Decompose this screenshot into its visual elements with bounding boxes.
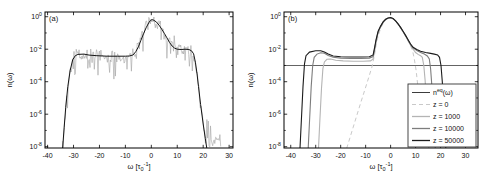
x-axis-label: ω [τ0-1] (127, 161, 150, 172)
legend-label-z50000: z = 50000 (433, 137, 464, 144)
y-tick-label: 10-8 (30, 141, 43, 150)
x-tick-label: 30 (462, 152, 470, 159)
x-axis-label: ω [τ0-1] (369, 161, 392, 172)
y-tick-label: 100 (31, 11, 42, 20)
legend-label-z10000: z = 10000 (433, 125, 464, 132)
panel-label-a: (a) (49, 14, 59, 23)
y-tick-label: 10-8 (269, 141, 282, 150)
legend-label-z0: z = 0 (433, 101, 448, 108)
y-tick-label: 10-4 (30, 76, 43, 85)
x-tick-label: 20 (199, 152, 207, 159)
x-tick-label: 20 (437, 152, 445, 159)
x-tick-label: -10 (120, 152, 130, 159)
y-tick-label: 10-2 (30, 44, 43, 53)
x-tick-label: 10 (173, 152, 181, 159)
x-tick-label: -40 (286, 152, 296, 159)
spectra-figure-svg: -40-30-20-10010203010010-210-410-610-8(a… (0, 0, 490, 182)
figure-canvas: -40-30-20-10010203010010-210-410-610-8(a… (0, 0, 490, 182)
x-tick-label: -20 (94, 152, 104, 159)
x-tick-label: 0 (149, 152, 153, 159)
panel-a: -40-30-20-10010203010010-210-410-610-8(a… (5, 11, 233, 172)
x-tick-label: -10 (361, 152, 371, 159)
x-tick-label: -40 (43, 152, 53, 159)
y-tick-label: 10-6 (30, 109, 43, 118)
panel-label-b: (b) (288, 14, 298, 23)
y-axis-label: n(ω) (246, 72, 255, 88)
y-tick-label: 100 (270, 11, 281, 20)
panel-b: -40-30-20-10010203010010-210-410-610-8(b… (246, 11, 478, 172)
y-axis-label: n(ω) (5, 72, 14, 88)
x-tick-label: -30 (68, 152, 78, 159)
axis-box-a (45, 12, 233, 148)
legend-label-z1000: z = 1000 (433, 113, 460, 120)
plot-area-a (62, 17, 220, 148)
legend-label-neq: neq(ω) (433, 87, 453, 97)
x-tick-label: 0 (389, 152, 393, 159)
x-tick-label: -20 (336, 152, 346, 159)
x-tick-label: 10 (412, 152, 420, 159)
legend: neq(ω)z = 0z = 1000z = 10000z = 50000 (408, 84, 476, 147)
x-tick-label: 30 (225, 152, 233, 159)
x-tick-label: -30 (311, 152, 321, 159)
y-tick-label: 10-6 (269, 109, 282, 118)
y-tick-label: 10-4 (269, 76, 282, 85)
series-smooth (63, 20, 207, 149)
y-tick-label: 10-2 (269, 44, 282, 53)
series-noisy (62, 17, 220, 148)
